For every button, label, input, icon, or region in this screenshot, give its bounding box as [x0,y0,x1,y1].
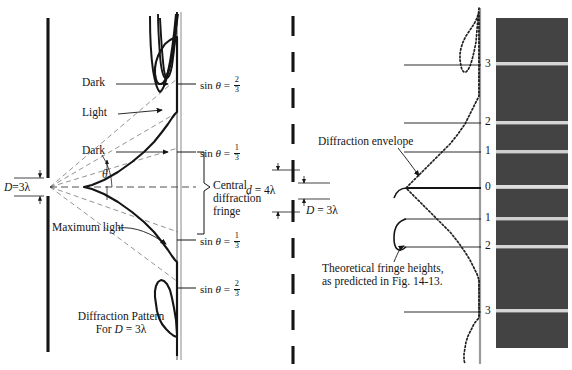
sin-text: sin [200,79,216,91]
fringe-photograph [496,18,568,348]
fraction-two-thirds: 23 [234,76,240,94]
sin-theta-label-bottom-outer: sin θ = 23 [200,280,240,298]
equals-glyph: = [221,147,233,159]
theta-label: θ [102,168,108,181]
fringe-order-1-lower: 1 [485,211,491,224]
slit-width-value: 3λ [19,181,30,193]
equals-glyph: = [221,283,233,295]
label-maximum-light: Maximum light [52,221,124,234]
sin-text: sin [200,283,216,295]
figure-canvas: D=3λ θ Dark Light Dark Maximum light sin… [0,0,572,370]
caption-line-1: Diffraction Pattern [56,310,186,323]
middle-slit-width-dimension [298,176,330,206]
sin-theta-label-top-outer: sin θ = 23 [200,76,240,94]
fringe-caption-arrow [394,246,404,262]
caption-line-2: For D = 3λ [56,323,186,336]
fringe-order-1-upper: 1 [485,144,491,157]
fringe-caption-line1: Theoretical fringe heights, [322,262,444,275]
label-light-upper: Light [82,106,107,119]
central-fringe-line3: fringe [213,205,261,218]
theoretical-fringe-caption: Theoretical fringe heights, as predicted… [322,262,444,288]
d-value: 4λ [264,184,275,196]
fraction-one-third: 13 [234,232,240,250]
equals-glyph: = [221,79,233,91]
fringe-caption-line2: as predicted in Fig. 14-13. [322,275,444,288]
ray-fan [50,78,196,282]
fringe-order-3-lower: 3 [485,304,491,317]
central-fringe-brace [197,152,210,234]
slit-separation-dimension [272,163,300,219]
label-dark-upper: Dark [82,76,105,89]
slit-width-label: D=3λ [4,181,30,194]
fringe-order-2-upper: 2 [485,115,491,128]
equals-glyph: = [221,235,233,247]
sin-text: sin [200,147,216,159]
diffraction-envelope-label: Diffraction envelope [318,135,413,148]
label-dark-mid: Dark [82,144,105,157]
fraction-one-third: 13 [234,144,240,162]
fringe-order-3-upper: 3 [485,57,491,70]
fringe-order-2-lower: 2 [485,239,491,252]
sin-theta-label-bottom-inner: sin θ = 13 [200,232,240,250]
fringe-order-0-center: 0 [485,180,491,193]
sin-theta-label-top-inner: sin θ = 13 [200,144,240,162]
minima-ticks [177,84,196,288]
fringe-peak-markers [394,188,407,250]
diffraction-envelope-curve [406,8,479,364]
sin-text: sin [200,235,216,247]
D-value: 3λ [327,204,338,216]
fraction-two-thirds: 23 [234,280,240,298]
left-panel-caption: Diffraction Pattern For D = 3λ [56,310,186,336]
slit-separation-label: d = 4λ [246,184,275,197]
middle-slit-width-label: D = 3λ [306,204,338,217]
